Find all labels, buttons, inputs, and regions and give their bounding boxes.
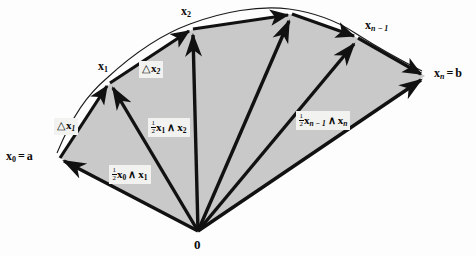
wedge-xn1-xn-subb: n <box>343 119 347 128</box>
label-origin: 0 <box>194 238 201 251</box>
label-xn-equals: = <box>444 66 455 80</box>
one-half-fraction: 12 <box>112 167 117 182</box>
annotation-wedge-x1-x2: 12x1∧x2 <box>149 119 189 136</box>
label-x1-subscript: 1 <box>104 65 108 74</box>
label-x2: x2 <box>181 5 191 19</box>
label-x2-subscript: 2 <box>187 10 191 19</box>
annotation-delta-x1-subscript: 1 <box>72 124 76 133</box>
label-xn-minus-1: xn − 1 <box>365 19 388 33</box>
label-x0-equals-a: x0=a <box>6 150 33 164</box>
annotation-delta-x2: △x2 <box>140 62 162 77</box>
annotation-wedge-xn1-xn: 12xn − 1∧xn <box>297 112 349 129</box>
label-x0-equals: = <box>16 149 27 163</box>
fraction-denominator: 2 <box>151 128 156 135</box>
wedge-product-fan-diagram: x0=a x1 x2 xn − 1 xn=b 0 △x1 △x2 12x0∧x1… <box>0 0 476 256</box>
wedge-icon: ∧ <box>326 114 338 126</box>
wedge-icon: ∧ <box>165 121 177 133</box>
label-xn-value: b <box>455 66 462 80</box>
wedge-xn1-xn-suba: n − 1 <box>310 119 326 128</box>
fraction-denominator: 2 <box>112 175 117 182</box>
one-half-fraction: 12 <box>299 113 304 128</box>
triangle-icon: △ <box>142 62 151 74</box>
triangle-icon: △ <box>57 119 66 131</box>
wedge-x1-x2-subb: 2 <box>183 126 187 135</box>
label-xn-equals-b: xn=b <box>434 67 462 81</box>
annotation-delta-x1: △x1 <box>55 119 77 134</box>
fraction-denominator: 2 <box>299 121 304 128</box>
wedge-x0-x1-subb: 1 <box>144 173 148 182</box>
annotation-wedge-x0-x1: 12x0∧x1 <box>110 166 150 183</box>
wedge-icon: ∧ <box>126 168 138 180</box>
one-half-fraction: 12 <box>151 120 156 135</box>
label-x0-value: a <box>27 149 33 163</box>
label-x1: x1 <box>98 60 108 74</box>
annotation-delta-x2-subscript: 2 <box>157 67 161 76</box>
label-xn1-subscript: n − 1 <box>371 24 388 33</box>
